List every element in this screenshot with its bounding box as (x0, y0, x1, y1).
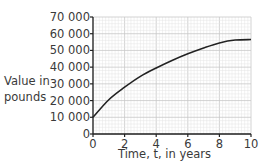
x-axis-label: Time, t, in years (118, 147, 211, 161)
plot-area (0, 0, 262, 168)
